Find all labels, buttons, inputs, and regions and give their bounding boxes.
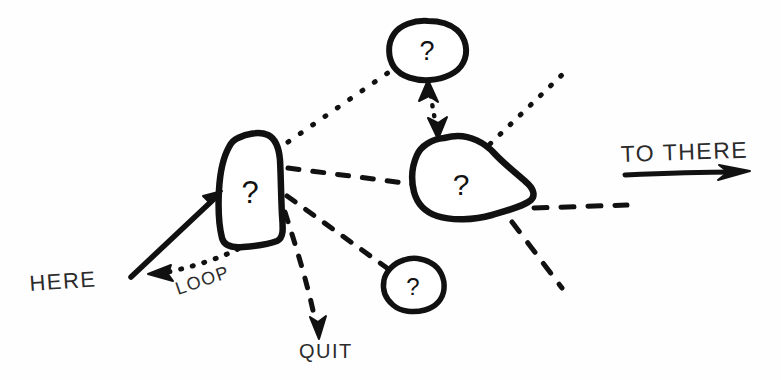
to-there-label: TO THERE [620,137,748,167]
middle-node-question-mark: ? [453,168,470,201]
left-question-node[interactable]: ? [219,133,283,247]
top-node-question-mark: ? [419,36,434,66]
sketch-surface: ? ? ? ? [0,0,781,380]
top-question-node[interactable]: ? [389,21,466,80]
to-there-arrow-line [625,172,736,175]
here-label: HERE [29,266,98,296]
left-node-question-mark: ? [241,175,258,210]
bottom-question-node[interactable]: ? [383,258,444,311]
diagram-canvas: ? ? ? ? [0,0,781,380]
bottom-node-question-mark: ? [406,273,419,300]
quit-label: QUIT [299,340,353,362]
